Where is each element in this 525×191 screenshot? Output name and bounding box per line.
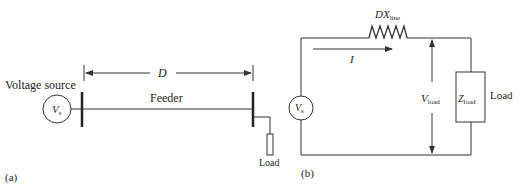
feeder-diagram: Voltage source Vs Feeder D Load (a) DXli… xyxy=(0,0,525,191)
panel-b-label: (b) xyxy=(301,167,314,180)
load-impedance-label: Zload xyxy=(458,93,476,106)
panel-a-label: (a) xyxy=(5,171,18,184)
bottom-wire xyxy=(301,120,471,155)
load-tap-wire xyxy=(253,117,270,134)
load-label-b: Load xyxy=(490,89,513,101)
load-voltage-label: Vload xyxy=(421,92,440,106)
line-reactance-label: DXline xyxy=(374,8,400,22)
feeder-label: Feeder xyxy=(150,91,183,105)
source-symbol: Vs xyxy=(52,103,62,117)
load-label: Load xyxy=(259,157,280,168)
load-box xyxy=(267,134,273,155)
top-wire-right xyxy=(407,38,471,72)
top-wire-left xyxy=(301,38,369,96)
source-symbol-b: Vs xyxy=(295,102,304,115)
panel-a: Voltage source Vs Feeder D Load (a) xyxy=(5,65,280,184)
voltage-source-label: Voltage source xyxy=(5,78,76,92)
panel-b: DXline Vs I Vload Zload Load (b) xyxy=(289,8,513,180)
line-reactance-coil xyxy=(369,26,407,38)
current-label: I xyxy=(349,53,355,65)
distance-label: D xyxy=(157,66,167,80)
